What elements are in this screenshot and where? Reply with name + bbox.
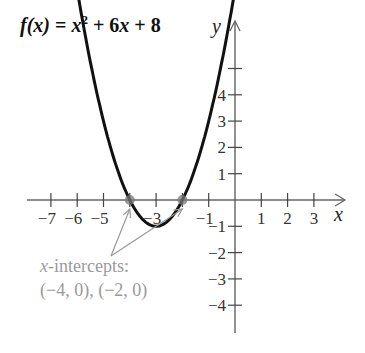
title-fx: f(x)	[20, 14, 50, 36]
annotation-label: -intercepts:	[48, 256, 129, 276]
annotation-x: x	[40, 256, 48, 276]
intercepts-annotation: x-intercepts: (−4, 0), (−2, 0)	[40, 254, 147, 302]
y-tick-label: 3	[218, 112, 227, 131]
title-rest: + 6x + 8	[88, 14, 161, 36]
arrow-line	[111, 209, 130, 256]
x-tick-label: −7	[38, 209, 57, 228]
x-tick-label: 2	[283, 209, 292, 228]
annotation-line-2: (−4, 0), (−2, 0)	[40, 278, 147, 302]
title-eq: =	[50, 14, 71, 36]
y-tick-label: 1	[218, 165, 227, 184]
x-tick-label: 3	[310, 209, 319, 228]
x-axis-label: x	[333, 203, 343, 225]
y-tick-label: 2	[218, 138, 227, 157]
y-tick-label: −3	[208, 270, 226, 289]
y-tick-label: −4	[208, 296, 227, 315]
y-tick-label: −2	[208, 244, 226, 263]
y-tick-label: 4	[218, 86, 227, 105]
intercept-point	[177, 195, 187, 205]
title-x: x	[71, 14, 81, 36]
x-tick-label: −5	[90, 209, 108, 228]
x-tick-label: 1	[257, 209, 266, 228]
annotation-line-1: x-intercepts:	[40, 254, 147, 278]
function-title: f(x) = x2 + 6x + 8	[20, 12, 161, 37]
intercept-point	[125, 195, 135, 205]
y-axis-label: y	[210, 15, 221, 38]
y-tick-label: −1	[208, 217, 226, 236]
x-tick-label: −6	[64, 209, 82, 228]
